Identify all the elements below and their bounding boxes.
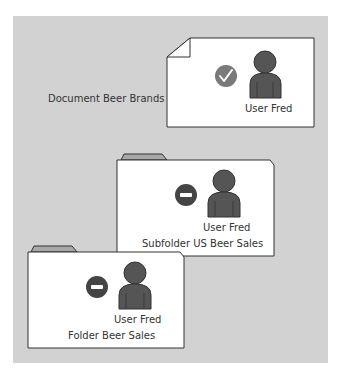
check-circle-icon xyxy=(215,65,237,87)
folder-user-label: User Fred xyxy=(114,314,161,325)
minus-circle-icon xyxy=(175,184,197,206)
subfolder-label: Subfolder US Beer Sales xyxy=(142,238,263,249)
subfolder-user-label: User Fred xyxy=(203,222,250,233)
diagram-canvas xyxy=(0,0,343,372)
minus-circle-icon xyxy=(86,276,108,298)
document-label: Document Beer Brands xyxy=(48,93,164,104)
folder-label: Folder Beer Sales xyxy=(68,330,155,341)
document-user-label: User Fred xyxy=(245,103,292,114)
